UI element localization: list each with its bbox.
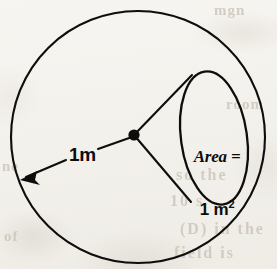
scanned-figure-page: mgn room ne so the 10 s (D) in the field… xyxy=(0,0,277,269)
radius-leader-line xyxy=(98,137,132,149)
solid-angle-figure xyxy=(0,0,277,269)
surface-area-patch xyxy=(172,67,256,209)
sphere-center-point xyxy=(128,129,139,140)
cone-edge-upper xyxy=(134,75,192,135)
